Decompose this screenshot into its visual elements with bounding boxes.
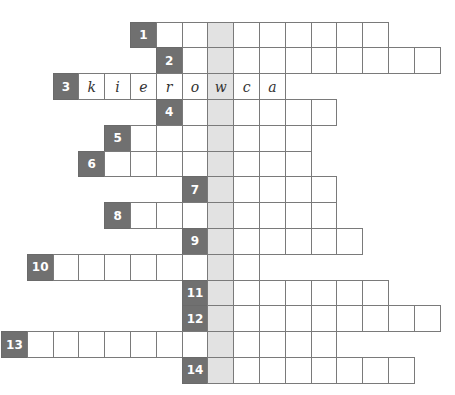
- answer-cell[interactable]: [233, 331, 260, 358]
- answer-cell[interactable]: [311, 228, 338, 255]
- answer-cell[interactable]: [182, 47, 209, 74]
- answer-cell[interactable]: [336, 305, 363, 332]
- answer-cell[interactable]: [182, 22, 209, 49]
- answer-cell[interactable]: [233, 305, 260, 332]
- answer-cell[interactable]: [233, 99, 260, 126]
- answer-cell[interactable]: [233, 228, 260, 255]
- answer-cell[interactable]: [311, 305, 338, 332]
- answer-cell[interactable]: [156, 22, 183, 49]
- answer-cell[interactable]: [259, 202, 286, 229]
- answer-cell[interactable]: [53, 331, 80, 358]
- answer-cell-highlighted[interactable]: [207, 47, 234, 74]
- answer-cell[interactable]: o: [182, 73, 209, 100]
- answer-cell[interactable]: [130, 331, 157, 358]
- answer-cell[interactable]: [311, 331, 338, 358]
- answer-cell[interactable]: [233, 254, 260, 281]
- answer-cell[interactable]: [130, 254, 157, 281]
- answer-cell[interactable]: [414, 305, 441, 332]
- answer-cell[interactable]: [259, 125, 286, 152]
- answer-cell[interactable]: [156, 254, 183, 281]
- answer-cell[interactable]: [233, 47, 260, 74]
- answer-cell[interactable]: [285, 22, 312, 49]
- answer-cell[interactable]: [362, 305, 389, 332]
- answer-cell-highlighted[interactable]: [207, 99, 234, 126]
- answer-cell[interactable]: [285, 47, 312, 74]
- answer-cell[interactable]: a: [259, 73, 286, 100]
- answer-cell-highlighted[interactable]: [207, 305, 234, 332]
- answer-cell[interactable]: k: [78, 73, 105, 100]
- answer-cell[interactable]: [362, 280, 389, 307]
- answer-cell[interactable]: [78, 331, 105, 358]
- answer-cell[interactable]: [259, 176, 286, 203]
- answer-cell[interactable]: [156, 202, 183, 229]
- answer-cell-highlighted[interactable]: [207, 22, 234, 49]
- answer-cell[interactable]: [285, 331, 312, 358]
- answer-cell[interactable]: [78, 254, 105, 281]
- answer-cell-highlighted[interactable]: w: [207, 73, 234, 100]
- answer-cell-highlighted[interactable]: [207, 331, 234, 358]
- answer-cell[interactable]: [130, 125, 157, 152]
- answer-cell[interactable]: [336, 357, 363, 384]
- answer-cell-highlighted[interactable]: [207, 151, 234, 178]
- answer-cell[interactable]: [259, 280, 286, 307]
- answer-cell[interactable]: [156, 151, 183, 178]
- answer-cell[interactable]: [233, 125, 260, 152]
- answer-cell[interactable]: [311, 99, 338, 126]
- answer-cell[interactable]: [285, 357, 312, 384]
- answer-cell[interactable]: [285, 99, 312, 126]
- answer-cell[interactable]: [362, 47, 389, 74]
- answer-cell-highlighted[interactable]: [207, 280, 234, 307]
- answer-cell[interactable]: [388, 305, 415, 332]
- answer-cell[interactable]: [182, 125, 209, 152]
- answer-cell-highlighted[interactable]: [207, 176, 234, 203]
- answer-cell[interactable]: [156, 331, 183, 358]
- answer-cell[interactable]: [311, 280, 338, 307]
- answer-cell[interactable]: [259, 151, 286, 178]
- answer-cell[interactable]: [182, 254, 209, 281]
- answer-cell[interactable]: [130, 202, 157, 229]
- answer-cell[interactable]: [182, 331, 209, 358]
- answer-cell[interactable]: [285, 305, 312, 332]
- answer-cell[interactable]: [311, 22, 338, 49]
- answer-cell[interactable]: [285, 176, 312, 203]
- answer-cell[interactable]: [104, 254, 131, 281]
- answer-cell[interactable]: [259, 22, 286, 49]
- answer-cell[interactable]: [233, 151, 260, 178]
- answer-cell[interactable]: [362, 357, 389, 384]
- answer-cell[interactable]: [285, 125, 312, 152]
- answer-cell[interactable]: [182, 99, 209, 126]
- answer-cell[interactable]: [259, 357, 286, 384]
- answer-cell[interactable]: [285, 202, 312, 229]
- answer-cell[interactable]: [156, 125, 183, 152]
- answer-cell[interactable]: [388, 47, 415, 74]
- answer-cell-highlighted[interactable]: [207, 357, 234, 384]
- answer-cell[interactable]: [259, 99, 286, 126]
- answer-cell[interactable]: [233, 202, 260, 229]
- answer-cell[interactable]: [336, 228, 363, 255]
- answer-cell[interactable]: [336, 22, 363, 49]
- answer-cell[interactable]: [182, 151, 209, 178]
- answer-cell[interactable]: [362, 22, 389, 49]
- answer-cell[interactable]: [259, 305, 286, 332]
- answer-cell[interactable]: [259, 47, 286, 74]
- answer-cell[interactable]: [336, 280, 363, 307]
- answer-cell-highlighted[interactable]: [207, 202, 234, 229]
- answer-cell[interactable]: [130, 151, 157, 178]
- answer-cell[interactable]: [27, 331, 54, 358]
- answer-cell[interactable]: [336, 47, 363, 74]
- answer-cell[interactable]: [233, 280, 260, 307]
- answer-cell[interactable]: [388, 357, 415, 384]
- answer-cell[interactable]: [311, 357, 338, 384]
- answer-cell[interactable]: [285, 280, 312, 307]
- answer-cell[interactable]: [414, 47, 441, 74]
- answer-cell[interactable]: [285, 151, 312, 178]
- answer-cell[interactable]: [233, 22, 260, 49]
- answer-cell[interactable]: [311, 202, 338, 229]
- answer-cell[interactable]: [311, 176, 338, 203]
- answer-cell[interactable]: [259, 331, 286, 358]
- answer-cell-highlighted[interactable]: [207, 254, 234, 281]
- answer-cell[interactable]: [104, 331, 131, 358]
- answer-cell[interactable]: c: [233, 73, 260, 100]
- answer-cell-highlighted[interactable]: [207, 228, 234, 255]
- answer-cell[interactable]: r: [156, 73, 183, 100]
